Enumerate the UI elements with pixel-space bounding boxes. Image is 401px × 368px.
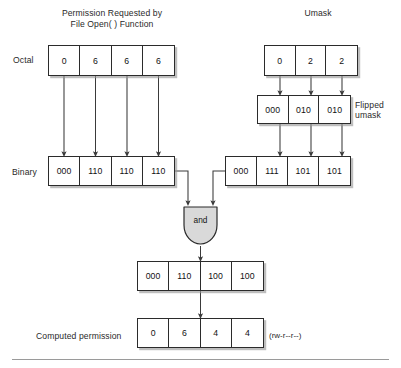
cell: 101 [288, 157, 319, 185]
flipped-umask-row: 000 010 010 [257, 95, 351, 124]
cell: 100 [232, 262, 263, 290]
cell: 6 [169, 319, 200, 347]
and-result-row: 000 110 100 100 [137, 261, 264, 291]
cell: 111 [257, 157, 288, 185]
cell: 000 [258, 96, 289, 123]
cell: 2 [296, 46, 327, 75]
cell: 110 [143, 157, 174, 185]
computed-permission-row: 0 6 4 4 [137, 318, 264, 348]
and-gate-label: and [181, 215, 220, 225]
cell: 110 [80, 157, 111, 185]
and-gate: and [181, 204, 220, 246]
bottom-divider [12, 359, 389, 360]
cell: 010 [289, 96, 320, 123]
cell: 110 [169, 262, 200, 290]
cell: 0 [265, 46, 296, 75]
and-gate-shape [181, 204, 220, 246]
cell: 000 [226, 157, 257, 185]
cell: 4 [232, 319, 263, 347]
cell: 000 [138, 262, 169, 290]
cell: 110 [112, 157, 143, 185]
cell: 6 [143, 46, 174, 75]
cell: 010 [319, 96, 350, 123]
cell: 0 [138, 319, 169, 347]
cell: 6 [112, 46, 143, 75]
cell: 100 [201, 262, 232, 290]
cell: 101 [319, 157, 350, 185]
umask-octal-row: 0 2 2 [264, 45, 358, 76]
cell: 000 [49, 157, 80, 185]
right-binary-row: 000 111 101 101 [225, 156, 351, 186]
cell: 2 [326, 46, 357, 75]
left-binary-row: 000 110 110 110 [48, 156, 175, 186]
cell: 6 [80, 46, 111, 75]
umask-diagram: Permission Requested by File Open( ) Fun… [0, 0, 401, 368]
left-octal-row: 0 6 6 6 [48, 45, 175, 76]
cell: 4 [201, 319, 232, 347]
cell: 0 [49, 46, 80, 75]
